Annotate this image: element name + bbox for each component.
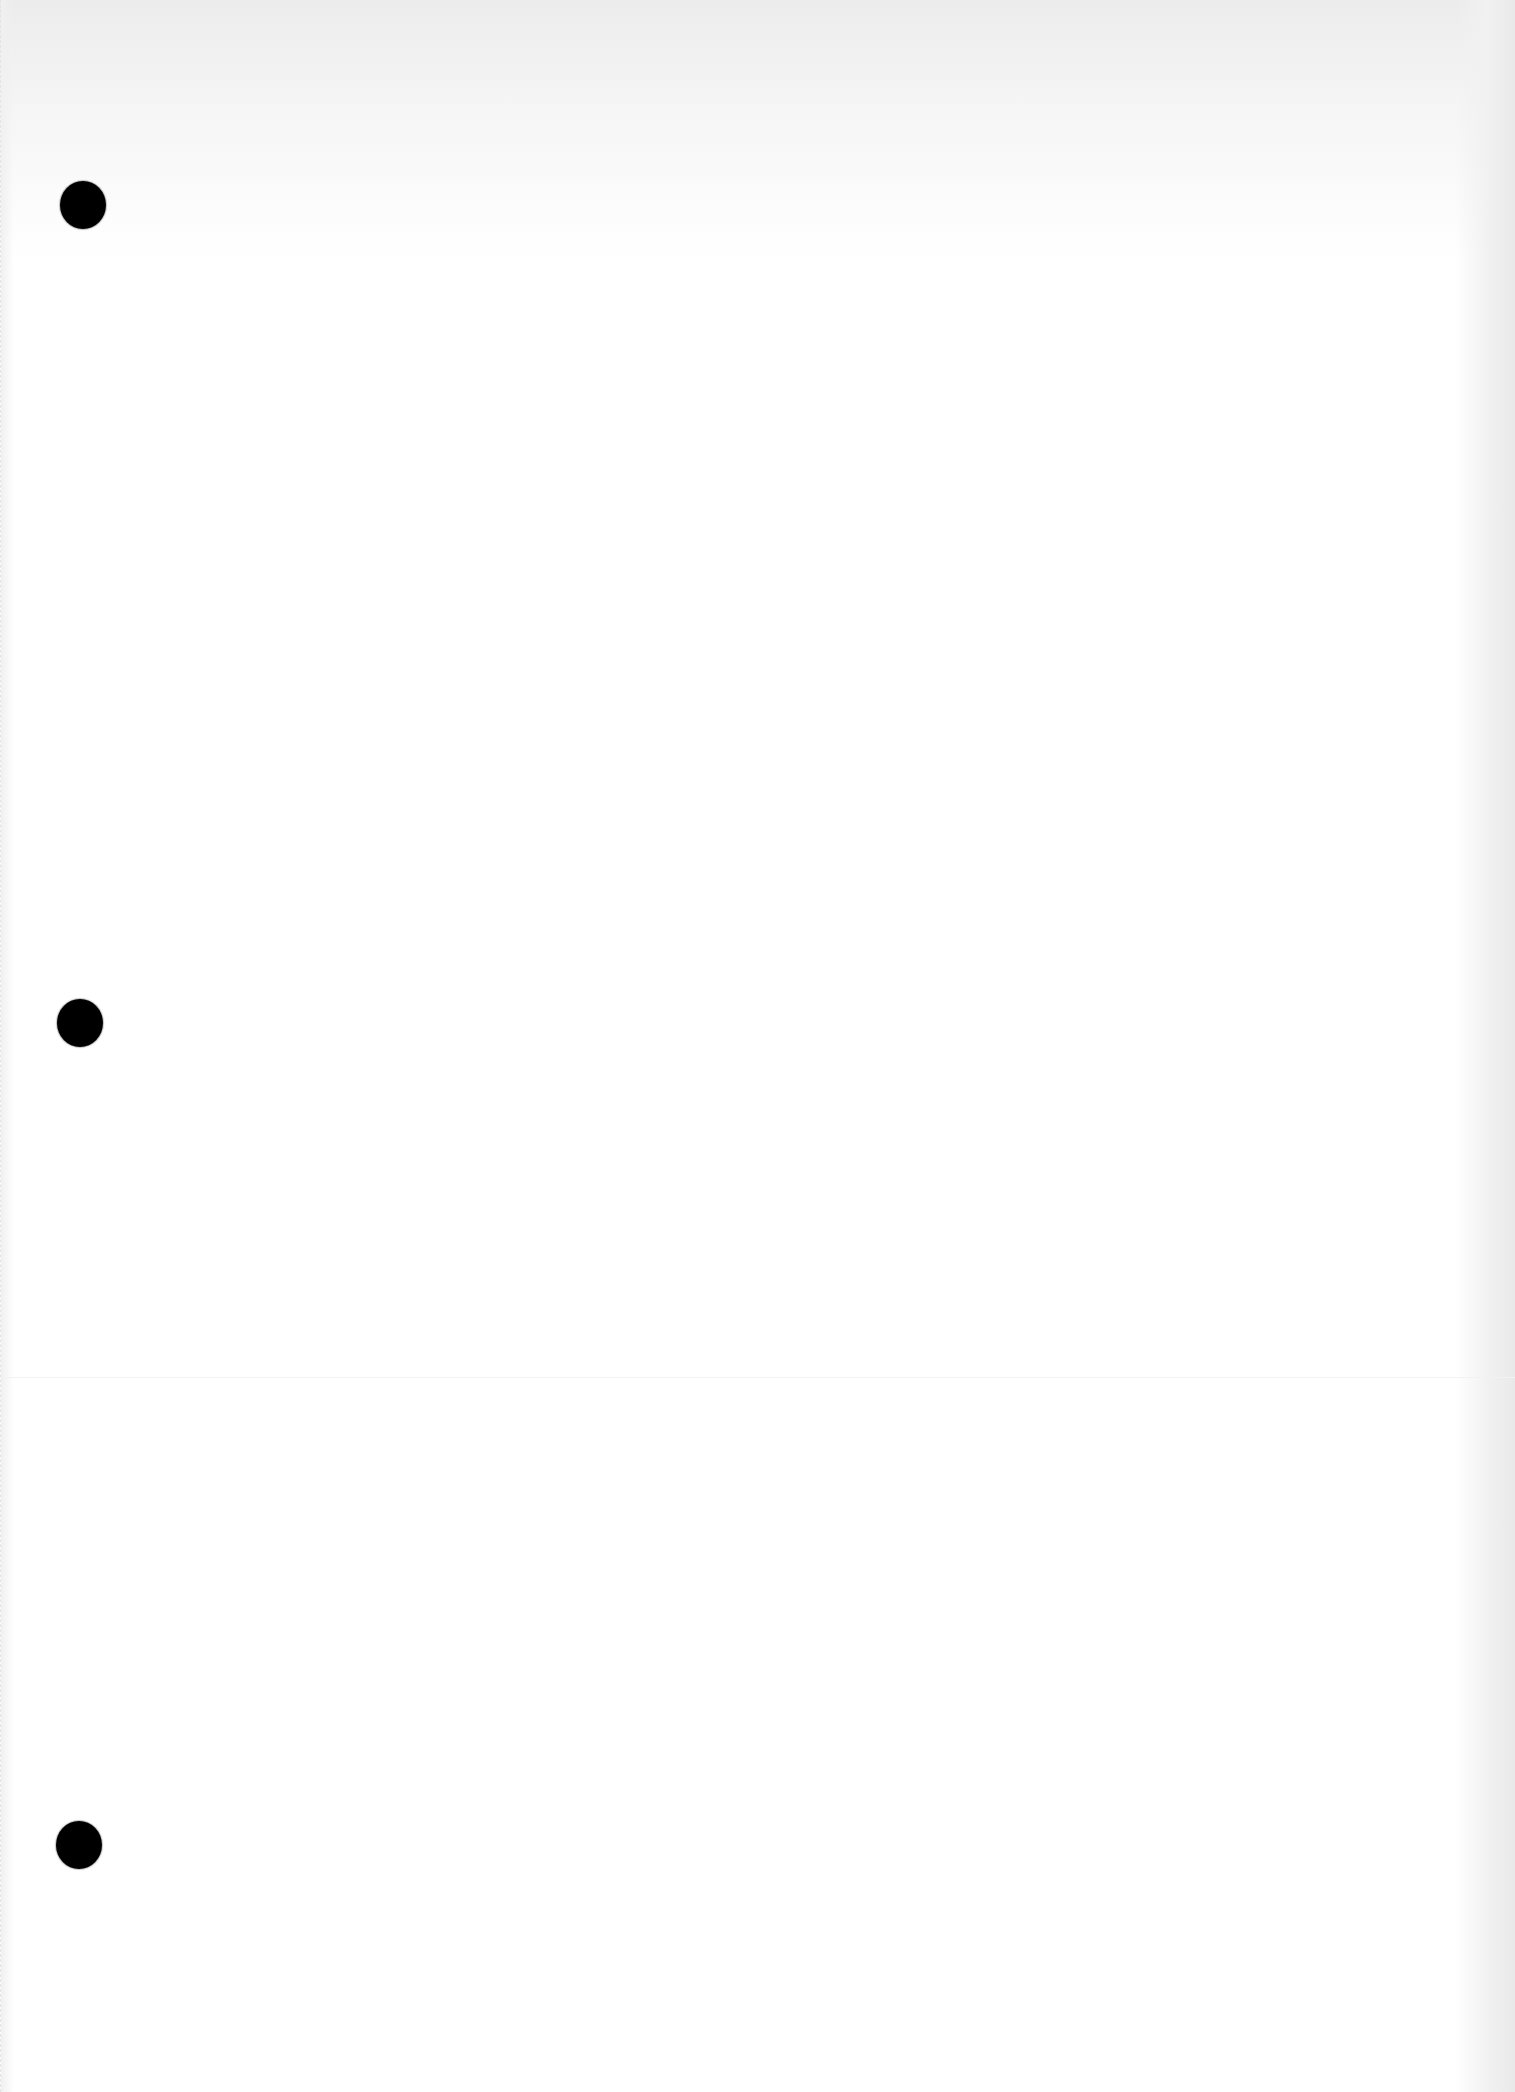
faint-fold-line: [0, 1377, 1515, 1378]
punch-hole-bottom: [56, 1821, 102, 1869]
scan-shading-right-edge: [1455, 0, 1515, 2092]
scanned-blank-page: [0, 0, 1515, 2092]
punch-hole-middle: [57, 999, 103, 1047]
scan-shading-top: [0, 0, 1515, 260]
punch-hole-top: [60, 181, 106, 229]
scan-shading-left-edge: [0, 0, 14, 2092]
